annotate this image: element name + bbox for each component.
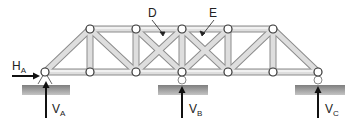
reaction-label-vc: VC [325, 102, 339, 118]
joint [224, 68, 232, 76]
joint [86, 68, 94, 76]
vc-main: V [325, 102, 333, 116]
truss-diagram: D E HA VA VB VC [0, 0, 351, 127]
ha-main: H [12, 59, 21, 73]
joint-c [314, 68, 322, 76]
member-label-d: D [148, 6, 157, 20]
joint [132, 25, 140, 33]
vc-sub: C [333, 109, 339, 118]
vb-sub: B [197, 109, 202, 118]
reaction-label-va: VA [52, 102, 66, 118]
joint [224, 25, 232, 33]
arrow-va-icon [43, 81, 50, 118]
roller-b [178, 76, 186, 84]
truss-members-fill [45, 29, 318, 72]
joint [269, 68, 277, 76]
roller-c [314, 76, 322, 84]
joint [132, 68, 140, 76]
joint-a [41, 68, 49, 76]
roller-supports [178, 76, 322, 84]
joint [86, 25, 94, 33]
joint [269, 25, 277, 33]
member-label-e: E [209, 6, 217, 20]
reaction-label-ha: HA [12, 59, 27, 75]
vb-main: V [189, 102, 197, 116]
reaction-label-vb: VB [189, 102, 202, 118]
va-sub: A [60, 109, 66, 118]
joint-b [178, 68, 186, 76]
va-main: V [52, 102, 60, 116]
joint [178, 25, 186, 33]
ha-sub: A [21, 66, 27, 75]
